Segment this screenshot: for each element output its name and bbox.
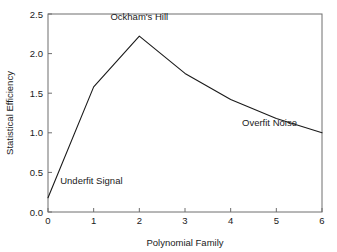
chart-annotation: Ockham's Hill [110, 11, 168, 22]
y-tick-label: 1.0 [30, 127, 43, 138]
y-tick-label: 0.5 [30, 167, 43, 178]
chart-figure: 0123456 0.00.51.01.52.02.5 Ockham's Hill… [0, 0, 337, 252]
x-axis-title: Polynomial Family [146, 237, 223, 248]
chart-annotation: Overfit Noise [242, 117, 297, 128]
chart-annotation: Underfit Signal [60, 175, 122, 186]
x-tick-label: 5 [274, 215, 279, 226]
y-tick-label: 2.5 [30, 9, 43, 20]
y-tick-label: 0.0 [30, 207, 43, 218]
x-tick-label: 1 [91, 215, 96, 226]
y-tick-label: 1.5 [30, 88, 43, 99]
x-tick-label: 6 [319, 215, 324, 226]
line-chart: 0123456 0.00.51.01.52.02.5 Ockham's Hill… [0, 0, 337, 252]
x-tick-label: 4 [228, 215, 233, 226]
x-tick-label: 2 [137, 215, 142, 226]
y-tick-label: 2.0 [30, 48, 43, 59]
x-tick-label: 0 [45, 215, 50, 226]
x-tick-label: 3 [182, 215, 187, 226]
y-axis-title: Statistical Efficiency [4, 71, 15, 155]
